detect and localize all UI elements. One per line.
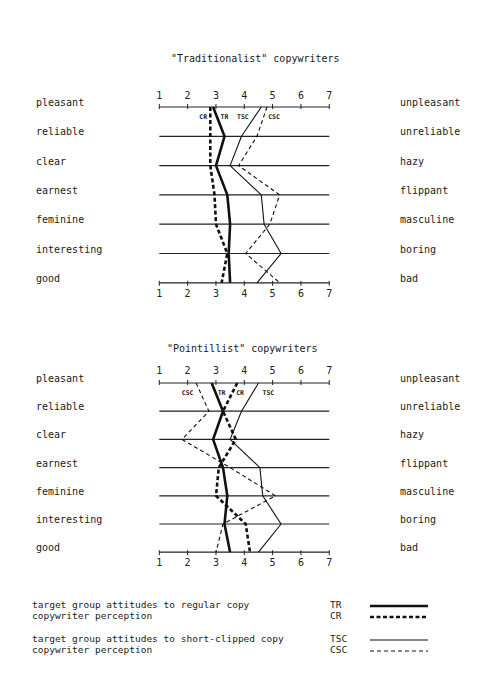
legend-code: CR xyxy=(330,610,341,621)
axis-tick-label-bottom: 1 xyxy=(156,557,162,568)
axis-tick-label-bottom: 7 xyxy=(326,288,332,299)
axis-tick-label-top: 4 xyxy=(241,90,247,101)
axis-tick-label-bottom: 2 xyxy=(185,557,191,568)
axis-tick-label-bottom: 2 xyxy=(185,288,191,299)
axis-tick-label-top: 7 xyxy=(326,90,332,101)
series-annotation-csc: CSC xyxy=(268,113,280,121)
series-annotation-csc: CSC xyxy=(182,389,194,397)
legend-description: copywriter perception xyxy=(32,610,152,621)
series-annotation-tr: TR xyxy=(218,389,226,397)
axis-tick-label-bottom: 6 xyxy=(298,557,304,568)
axis-tick-label-top: 7 xyxy=(326,365,332,376)
axis-tick-label-bottom: 5 xyxy=(270,288,276,299)
axis-tick-label-top: 3 xyxy=(213,90,219,101)
axis-tick-label-top: 4 xyxy=(241,365,247,376)
axis-tick-label-bottom: 3 xyxy=(213,557,219,568)
series-annotation-cr: CR xyxy=(199,113,207,121)
axis-tick-label-top: 1 xyxy=(156,90,162,101)
legend-code: TR xyxy=(330,599,341,610)
axis-tick-label-bottom: 4 xyxy=(241,557,247,568)
axis-tick-label-bottom: 4 xyxy=(241,288,247,299)
axis-tick-label-top: 6 xyxy=(298,365,304,376)
axis-tick-label-top: 6 xyxy=(298,90,304,101)
axis-tick-label-bottom: 7 xyxy=(326,557,332,568)
axis-tick-label-top: 2 xyxy=(185,365,191,376)
semantic-differential-charts: 11223344556677CRTRTSCCSC11223344556677CS… xyxy=(0,0,485,697)
axis-tick-label-top: 3 xyxy=(213,365,219,376)
axis-tick-label-top: 5 xyxy=(270,365,276,376)
series-annotation-tr: TR xyxy=(221,113,229,121)
legend-description: copywriter perception xyxy=(32,644,152,655)
legend-description: target group attitudes to short-clipped … xyxy=(32,633,284,644)
axis-tick-label-bottom: 3 xyxy=(213,288,219,299)
series-annotation-tsc: TSC xyxy=(237,113,249,121)
axis-tick-label-top: 1 xyxy=(156,365,162,376)
legend-code: CSC xyxy=(330,644,347,655)
axis-tick-label-top: 2 xyxy=(185,90,191,101)
axis-tick-label-bottom: 5 xyxy=(270,557,276,568)
series-annotation-cr: CR xyxy=(236,389,244,397)
axis-tick-label-bottom: 1 xyxy=(156,288,162,299)
series-annotation-tsc: TSC xyxy=(262,389,274,397)
legend-description: target group attitudes to regular copy xyxy=(32,599,249,610)
axis-tick-label-bottom: 6 xyxy=(298,288,304,299)
legend-code: TSC xyxy=(330,633,347,644)
axis-tick-label-top: 5 xyxy=(270,90,276,101)
